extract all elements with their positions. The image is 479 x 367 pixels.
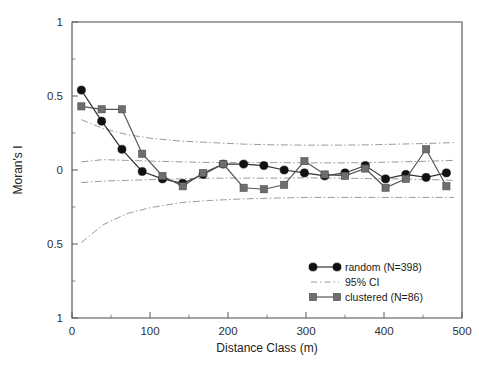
legend-label: clustered (N=86) (345, 291, 423, 303)
legend-marker-circle (333, 263, 341, 271)
x-axis-ticks: 0100200300400500 (69, 312, 472, 337)
chart-legend: random (N=398)95% CIclustered (N=86) (309, 261, 423, 303)
axis-frame (72, 22, 462, 318)
ci-curve (81, 160, 454, 163)
legend-label: 95% CI (345, 276, 379, 288)
data-point-clustered (118, 106, 125, 113)
data-point-clustered (159, 172, 166, 179)
ci-curve (81, 120, 454, 145)
series-line (81, 106, 446, 189)
data-point-clustered (382, 184, 389, 191)
legend-marker-square (309, 293, 316, 300)
chart-svg: 10.500.51 0100200300400500 Moran's I Dis… (0, 0, 479, 367)
x-tick-label: 100 (140, 325, 159, 337)
data-point-clustered (199, 169, 206, 176)
x-tick-label: 400 (374, 325, 393, 337)
data-point-random (98, 117, 106, 125)
data-point-clustered (260, 186, 267, 193)
data-point-clustered (78, 103, 85, 110)
x-tick-label: 300 (296, 325, 315, 337)
data-point-random (381, 175, 389, 183)
data-point-random (422, 173, 430, 181)
data-point-random (118, 145, 126, 153)
data-point-clustered (423, 146, 430, 153)
data-point-clustered (321, 171, 328, 178)
y-tick-label: 0.5 (47, 90, 63, 102)
x-axis-label: Distance Class (m) (216, 341, 317, 355)
data-point-clustered (341, 172, 348, 179)
data-point-clustered (179, 183, 186, 190)
data-point-random (300, 169, 308, 177)
ci-curve (81, 197, 454, 242)
data-point-clustered (301, 158, 308, 165)
data-point-clustered (402, 175, 409, 182)
data-point-random (240, 160, 248, 168)
data-point-clustered (139, 150, 146, 157)
x-tick-label: 500 (452, 325, 471, 337)
data-point-clustered (362, 165, 369, 172)
data-point-clustered (240, 184, 247, 191)
x-tick-label: 0 (69, 325, 75, 337)
legend-label: random (N=398) (345, 261, 422, 273)
correlogram-chart: 10.500.51 0100200300400500 Moran's I Dis… (0, 0, 479, 367)
data-point-random (77, 86, 85, 94)
data-point-clustered (220, 160, 227, 167)
y-axis-label: Moran's I (11, 146, 25, 195)
data-point-random (260, 161, 268, 169)
legend-marker-circle (309, 263, 317, 271)
data-point-random (280, 166, 288, 174)
data-point-clustered (98, 106, 105, 113)
y-axis-ticks: 10.500.51 (47, 16, 78, 324)
data-point-random (138, 167, 146, 175)
legend-marker-square (333, 293, 340, 300)
data-series (77, 86, 450, 193)
data-point-clustered (443, 183, 450, 190)
confidence-interval-bands (81, 120, 454, 243)
plot-frame (72, 22, 462, 318)
data-point-random (442, 169, 450, 177)
y-tick-label: 1 (57, 16, 63, 28)
data-point-clustered (281, 181, 288, 188)
x-tick-label: 200 (218, 325, 237, 337)
y-tick-label: 0.5 (47, 238, 63, 250)
y-tick-label: 0 (57, 164, 63, 176)
y-tick-label: 1 (57, 312, 63, 324)
